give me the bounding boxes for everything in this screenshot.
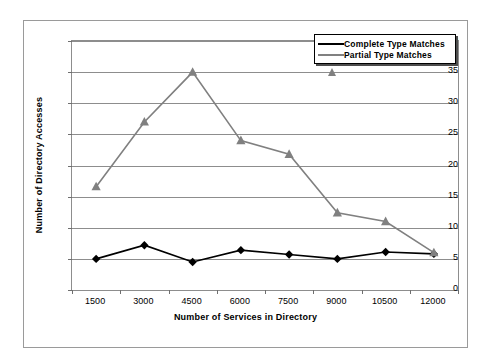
x-tick: [120, 290, 121, 294]
x-tick-label: 10500: [372, 297, 397, 306]
data-point-marker: [285, 250, 293, 258]
x-tick-label: 12000: [420, 297, 445, 306]
data-point-marker: [188, 67, 197, 76]
data-point-marker: [429, 248, 438, 257]
y-tick-label: 35: [448, 66, 458, 75]
chart-legend: Complete Type Matches Partial Type Match…: [314, 34, 456, 64]
legend-line-icon: [318, 43, 344, 45]
legend-swatch-partial: [318, 49, 344, 60]
legend-item-complete-type-matches[interactable]: Complete Type Matches: [318, 38, 451, 49]
data-point-marker: [237, 246, 245, 254]
legend-swatch-complete: [318, 38, 344, 49]
plot-area: [71, 40, 459, 291]
series-plot: [72, 41, 458, 290]
chart-frame: Number of Directory Accesses 05101520253…: [23, 20, 468, 348]
series-line-1: [96, 72, 434, 253]
x-tick-label: 7500: [278, 297, 298, 306]
y-tick-label: 20: [448, 160, 458, 169]
x-tick: [410, 290, 411, 294]
data-point-marker: [92, 255, 100, 263]
y-tick-label: 10: [448, 222, 458, 231]
x-tick: [362, 290, 363, 294]
x-tick: [313, 290, 314, 294]
x-tick-label: 3000: [133, 297, 153, 306]
x-tick-label: 6000: [230, 297, 250, 306]
data-point-marker: [140, 241, 148, 249]
y-tick-label: 0: [453, 284, 458, 293]
data-point-marker: [381, 248, 389, 256]
x-tick-label: 9000: [326, 297, 346, 306]
data-point-marker: [188, 258, 196, 266]
legend-label-partial: Partial Type Matches: [344, 50, 432, 60]
x-axis-title: Number of Services in Directory: [24, 312, 467, 322]
triangle-marker-icon: [328, 51, 336, 69]
x-tick: [72, 290, 73, 294]
y-tick-label: 15: [448, 191, 458, 200]
legend-item-partial-type-matches[interactable]: Partial Type Matches: [318, 49, 451, 60]
x-tick: [217, 290, 218, 294]
x-tick: [169, 290, 170, 294]
x-tick-label: 1500: [85, 297, 105, 306]
data-point-marker: [333, 255, 341, 263]
y-tick-label: 5: [453, 253, 458, 262]
x-tick-label: 4500: [182, 297, 202, 306]
legend-label-complete: Complete Type Matches: [344, 39, 445, 49]
y-tick-label: 25: [448, 128, 458, 137]
x-tick: [265, 290, 266, 294]
x-tick: [458, 290, 459, 294]
y-tick-label: 30: [448, 97, 458, 106]
y-axis-title: Number of Directory Accesses: [34, 96, 44, 232]
